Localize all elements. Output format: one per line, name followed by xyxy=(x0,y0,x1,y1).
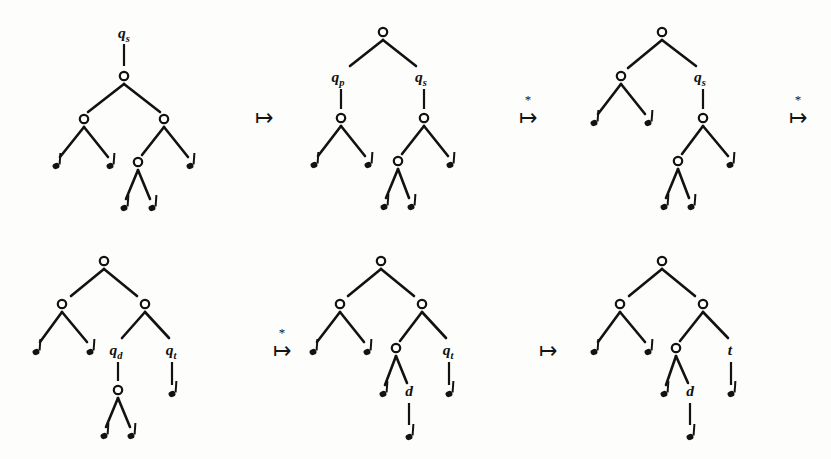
note-stem xyxy=(598,339,599,351)
tree-node xyxy=(100,257,108,265)
tree-node xyxy=(699,114,707,122)
note-stem xyxy=(387,381,388,393)
tree-node xyxy=(658,28,666,36)
tree-node xyxy=(392,344,400,352)
note-stem xyxy=(735,381,736,393)
tree-node xyxy=(617,72,625,80)
maps-to-icon: ↦ xyxy=(255,105,273,130)
note-stem xyxy=(598,110,599,122)
edge-state-label: d xyxy=(686,382,694,399)
note-stem xyxy=(371,339,372,351)
maps-to-icon: ↦ xyxy=(539,338,557,363)
tree-rewriting-figure: qsqpqsqsqdqtdqtdt↦*↦*↦*↦↦ xyxy=(0,0,831,459)
tree-node xyxy=(58,300,66,308)
note-stem xyxy=(413,424,414,436)
tree-node xyxy=(420,114,428,122)
note-stem xyxy=(94,339,95,351)
note-stem xyxy=(734,152,735,164)
tree-node xyxy=(699,300,707,308)
rewrite-arrow: ↦ xyxy=(539,338,557,363)
note-stem xyxy=(318,152,319,164)
tree-node xyxy=(616,300,624,308)
note-stem xyxy=(454,152,455,164)
tree-node xyxy=(120,72,128,80)
tree-node xyxy=(379,28,387,36)
note-stem xyxy=(695,194,696,206)
note-stem xyxy=(453,381,454,393)
note-stem xyxy=(317,339,318,351)
tree-node xyxy=(674,157,682,165)
note-stem xyxy=(135,423,136,435)
note-stem xyxy=(415,194,416,206)
figure-canvas: qsqpqsqsqdqtdqtdt↦*↦*↦*↦↦ xyxy=(0,0,831,459)
note-stem xyxy=(194,153,195,165)
tree-node xyxy=(672,344,680,352)
note-stem xyxy=(114,153,115,165)
note-stem xyxy=(156,195,157,207)
tree-node xyxy=(160,115,168,123)
edge-state-label: d xyxy=(405,382,413,399)
tree-node xyxy=(134,158,142,166)
tree-node xyxy=(658,257,666,265)
note-stem xyxy=(694,424,695,436)
tree-node xyxy=(394,157,402,165)
note-stem xyxy=(668,381,669,393)
tree-node xyxy=(418,300,426,308)
tree-node xyxy=(80,115,88,123)
note-stem xyxy=(108,423,109,435)
note-stem xyxy=(372,152,373,164)
note-stem xyxy=(652,339,653,351)
edge-state-label: t xyxy=(728,341,733,358)
tree-node xyxy=(336,300,344,308)
note-stem xyxy=(388,194,389,206)
note-stem xyxy=(40,339,41,351)
note-stem xyxy=(176,381,177,393)
tree-node xyxy=(337,114,345,122)
rewrite-arrow: ↦ xyxy=(255,105,273,130)
tree-node xyxy=(377,257,385,265)
note-stem xyxy=(652,110,653,122)
note-stem xyxy=(60,153,61,165)
tree-node xyxy=(141,300,149,308)
note-stem xyxy=(668,194,669,206)
maps-to-icon: ↦ xyxy=(519,105,537,130)
maps-to-icon: ↦ xyxy=(273,338,291,363)
note-stem xyxy=(128,195,129,207)
maps-to-icon: ↦ xyxy=(789,105,807,130)
tree-node xyxy=(114,386,122,394)
